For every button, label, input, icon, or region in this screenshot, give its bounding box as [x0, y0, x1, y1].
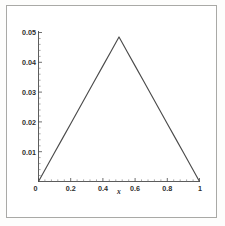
- plot-canvas: 0.05 0.04 0.03 0.02 0.01: [0, 0, 225, 226]
- y-tick-label-0.05: 0.05: [22, 28, 36, 37]
- x-tick-label-1: 1: [198, 184, 202, 193]
- x-axis-group: 0 0.2 0.4 0.6 0.8 1 x: [34, 178, 203, 196]
- x-tick-label-0.4: 0.4: [98, 184, 108, 193]
- y-tick-label-0.03: 0.03: [22, 88, 36, 97]
- x-tick-label-0: 0: [34, 184, 38, 193]
- y-axis-group: 0.05 0.04 0.03 0.02 0.01: [22, 28, 42, 181]
- figure-container: 0.05 0.04 0.03 0.02 0.01: [0, 0, 225, 226]
- x-axis-title: x: [116, 187, 121, 196]
- x-tick-label-0.8: 0.8: [162, 184, 172, 193]
- data-series-tent-function: [39, 37, 200, 182]
- y-tick-label-0.02: 0.02: [22, 118, 36, 127]
- y-tick-label-0.04: 0.04: [22, 58, 36, 67]
- x-tick-label-0.6: 0.6: [130, 184, 140, 193]
- x-tick-label-0.2: 0.2: [66, 184, 76, 193]
- y-tick-label-0.01: 0.01: [22, 148, 36, 157]
